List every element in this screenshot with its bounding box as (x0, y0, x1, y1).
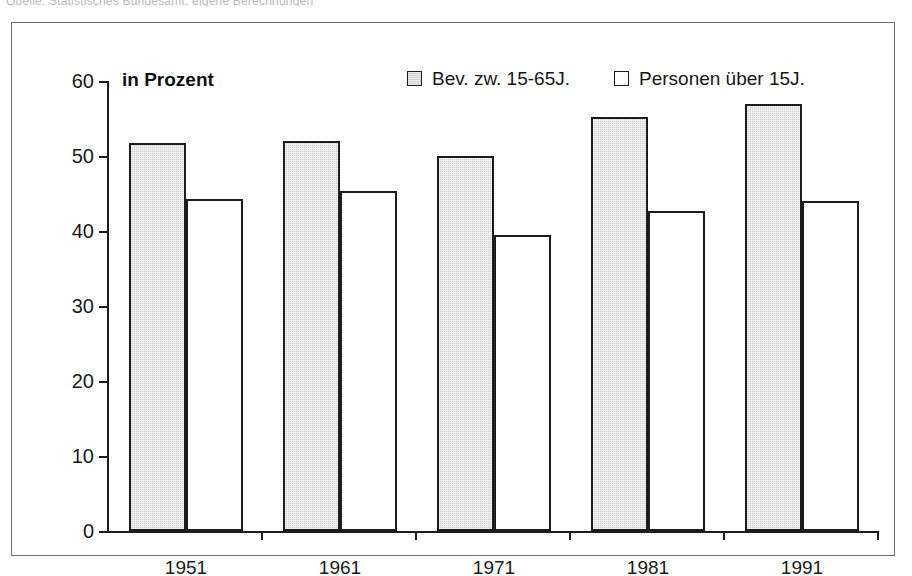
y-tick-mark (99, 156, 108, 158)
x-axis-label-1991: 1991 (781, 557, 823, 576)
y-tick-mark (99, 81, 108, 83)
x-tick-mark (261, 531, 263, 540)
x-axis-label-1971: 1971 (473, 557, 515, 576)
y-tick-label: 50 (72, 146, 94, 166)
y-tick-mark (99, 381, 108, 383)
x-tick-mark (723, 531, 725, 540)
chart-frame: in Prozent Bev. zw. 15-65J. Personen übe… (11, 22, 895, 556)
x-axis-label-1951: 1951 (165, 557, 207, 576)
y-tick-label: 0 (83, 521, 94, 541)
bar-1951-series-b (186, 199, 243, 531)
bar-1991-series-a (745, 104, 802, 531)
scanned-header-text: Quelle: Statistisches Bundesamt, eigene … (6, 0, 566, 6)
x-tick-mark (569, 531, 571, 540)
x-axis-line (107, 531, 878, 533)
x-tick-mark (415, 531, 417, 540)
y-tick-label: 10 (72, 446, 94, 466)
x-tick-mark-end (877, 531, 879, 540)
bar-1981-series-a (591, 117, 648, 531)
y-tick-mark (99, 231, 108, 233)
bar-1991-series-b (802, 201, 859, 531)
x-axis-label-1961: 1961 (319, 557, 361, 576)
x-axis-label-1981: 1981 (627, 557, 669, 576)
y-tick-label: 60 (72, 71, 94, 91)
plot-area: 6050403020100 19511961197119811991 (107, 81, 877, 531)
bar-1981-series-b (648, 211, 705, 531)
bar-1961-series-b (340, 191, 397, 531)
y-tick-mark (99, 456, 108, 458)
y-tick-mark (99, 306, 108, 308)
y-tick-label: 20 (72, 371, 94, 391)
bar-1961-series-a (283, 141, 340, 531)
y-tick-label: 30 (72, 296, 94, 316)
y-tick-mark (99, 531, 108, 533)
y-tick-label: 40 (72, 221, 94, 241)
bar-1971-series-b (494, 235, 551, 531)
bar-1971-series-a (437, 156, 494, 531)
bar-1951-series-a (129, 143, 186, 532)
